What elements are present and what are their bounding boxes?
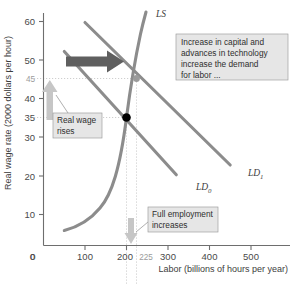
curve-label-ld1-group: LD 1 xyxy=(247,168,263,180)
x-axis-title: Labor (billions of hours per year) xyxy=(158,264,288,274)
full-employment-note-leader xyxy=(136,222,148,232)
y-tick-label-45: 45 xyxy=(26,75,36,84)
labor-market-chart: 60 50 45 40 35 30 20 10 0 0 100 200 225 … xyxy=(0,0,297,284)
demand-shift-note-line-2: advances in technology xyxy=(181,48,269,58)
equilibrium-marker-initial xyxy=(122,113,131,122)
full-employment-note-line-2: increases xyxy=(152,220,188,230)
demand-shift-note: Increase in capital and advances in tech… xyxy=(176,34,288,80)
x-tick-label-500: 500 xyxy=(243,251,259,262)
curve-label-ld1: LD xyxy=(247,168,260,178)
curve-label-ld0: LD xyxy=(195,182,208,192)
y-tick-label-30: 30 xyxy=(24,132,35,143)
real-wage-note: Real wage rises xyxy=(53,95,102,138)
x-tick-label-200: 200 xyxy=(117,251,133,262)
full-employment-note: Full employment increases xyxy=(136,207,218,232)
x-tick-label-0: 0 xyxy=(30,251,35,262)
curve-label-ls: LS xyxy=(155,9,166,19)
y-tick-label-10: 10 xyxy=(24,209,35,220)
chart-svg: 60 50 45 40 35 30 20 10 0 0 100 200 225 … xyxy=(0,0,297,284)
y-tick-label-50: 50 xyxy=(24,55,35,66)
y-tick-label-60: 60 xyxy=(24,16,35,27)
curve-label-ld1-subscript: 1 xyxy=(260,173,263,180)
real-wage-note-line-2: rises xyxy=(57,126,75,136)
curve-label-ld0-subscript: 0 xyxy=(208,187,212,194)
y-tick-label-20: 20 xyxy=(24,171,35,182)
equilibrium-marker-new xyxy=(133,75,140,82)
y-tick-labels: 60 50 45 40 35 30 20 10 0 xyxy=(24,16,35,262)
demand-shift-note-line-1: Increase in capital and xyxy=(181,37,264,47)
full-employment-arrow-icon xyxy=(125,218,138,244)
demand-shift-note-line-4: for labor ... xyxy=(181,70,221,80)
demand-shift-note-line-3: increase the demand xyxy=(181,59,259,69)
y-tick-label-35: 35 xyxy=(24,112,35,123)
x-tick-labels: 0 100 200 225 300 400 500 xyxy=(30,251,259,262)
curve-label-ld0-group: LD 0 xyxy=(195,182,212,194)
real-wage-note-leader xyxy=(56,95,68,113)
full-employment-note-line-1: Full employment xyxy=(152,209,214,219)
y-axis-title: Real wage rate (2000 dollars per hour) xyxy=(3,36,13,190)
x-tick-label-300: 300 xyxy=(160,251,176,262)
x-tick-label-400: 400 xyxy=(202,251,218,262)
real-wage-note-line-1: Real wage xyxy=(57,115,97,125)
x-tick-label-225: 225 xyxy=(139,253,153,262)
y-tick-label-40: 40 xyxy=(24,93,35,104)
x-tick-label-100: 100 xyxy=(77,251,93,262)
